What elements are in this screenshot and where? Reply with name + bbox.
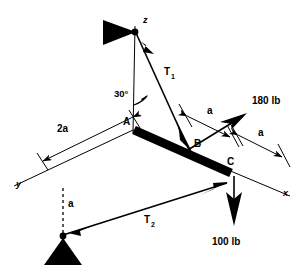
cable-t1-label-sub: 1	[171, 73, 175, 80]
dimension-2a-label: 2a	[57, 123, 69, 134]
y-axis-label: y	[15, 179, 22, 189]
force-100lb-arrow	[226, 176, 242, 226]
cable-t2	[63, 182, 228, 236]
support-top	[103, 20, 138, 45]
force-100lb-label: 100 lb	[212, 236, 240, 247]
y-axis	[14, 130, 133, 186]
point-b-label: B	[194, 138, 201, 149]
cable-t2-label-sub: 2	[151, 221, 155, 228]
point-c-label: C	[227, 156, 234, 167]
dimension-a-upper-right-label: a	[207, 105, 213, 116]
dimension-a-lower-right-label: a	[258, 127, 264, 138]
dimension-a-vertical-label: a	[68, 198, 74, 209]
cable-t1-label: T 1	[164, 66, 175, 80]
cable-t1-label-text: T	[164, 66, 170, 77]
point-a-label: A	[123, 116, 130, 127]
angle-30-arc	[134, 95, 148, 105]
z-axis-label: z	[142, 15, 148, 25]
angle-30-label: 30°	[114, 88, 129, 99]
x-axis-label: x	[282, 188, 289, 198]
support-bottom	[44, 233, 82, 265]
force-180lb-label: 180 lb	[252, 95, 280, 106]
engineering-diagram: z x y A B C T 1 T 2 30° 2a a a a 180 lb …	[0, 0, 305, 271]
cable-t2-label-text: T	[144, 214, 150, 225]
cable-t2-label: T 2	[144, 214, 155, 228]
